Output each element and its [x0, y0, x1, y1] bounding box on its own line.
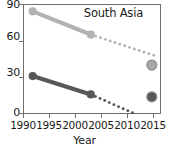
plot-title: South Asia	[84, 6, 143, 20]
y-tick-mark	[19, 4, 23, 5]
x-tick-mark	[153, 114, 154, 118]
y-tick-label-90: 90	[6, 0, 20, 10]
x-tick-mark	[75, 114, 76, 118]
y-tick-mark	[19, 77, 23, 78]
x-tick-label-1990: 1990	[10, 119, 36, 131]
x-tick-mark	[127, 114, 128, 118]
x-tick-label-1995: 1995	[36, 119, 62, 131]
chart-container: South Asia 90 60 30 0 1990 1995 2000 200…	[0, 0, 169, 155]
x-tick-label-2010: 2010	[114, 119, 140, 131]
x-tick-mark	[49, 114, 50, 118]
x-tick-label-2015: 2015	[140, 119, 166, 131]
x-tick-label-2000: 2000	[62, 119, 88, 131]
x-tick-mark	[101, 114, 102, 118]
plot-frame	[23, 4, 161, 114]
y-tick-label-60: 60	[6, 32, 20, 42]
y-axis: 90 60 30 0	[0, 0, 20, 155]
x-tick-label-2005: 2005	[88, 119, 114, 131]
y-tick-mark	[19, 41, 23, 42]
y-tick-label-30: 30	[6, 68, 20, 78]
x-tick-mark	[23, 114, 24, 118]
x-axis-title: Year	[0, 134, 169, 147]
